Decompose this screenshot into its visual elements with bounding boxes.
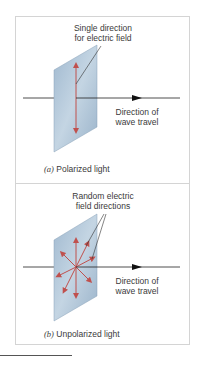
caption-b-letter: (b) xyxy=(44,329,54,339)
direction-label-a: Direction of wave travel xyxy=(112,107,162,127)
direction-arrowhead-a xyxy=(132,95,142,101)
caption-b: (b) Unpolarized light xyxy=(44,329,120,339)
caption-b-text: Unpolarized light xyxy=(54,329,120,339)
direction-arrowhead-b xyxy=(132,264,142,270)
field-label-a-line1: Single direction xyxy=(70,23,136,33)
panel-a-graphics xyxy=(23,45,180,152)
caption-a-text: Polarized light xyxy=(54,164,110,174)
direction-label-b: Direction of wave travel xyxy=(112,276,162,296)
direction-label-b-line2: wave travel xyxy=(112,286,162,296)
field-label-b: Random electric field directions xyxy=(70,191,136,211)
field-label-b-line1: Random electric xyxy=(70,191,136,201)
diagram-graphics xyxy=(0,0,201,366)
direction-label-a-line2: wave travel xyxy=(112,117,162,127)
field-label-a-line2: for electric field xyxy=(70,33,136,43)
footer-rule xyxy=(0,355,72,356)
direction-label-a-line1: Direction of xyxy=(112,107,162,117)
panel-b-graphics xyxy=(23,214,180,321)
direction-label-b-line1: Direction of xyxy=(112,276,162,286)
caption-a-letter: (a) xyxy=(44,164,54,174)
field-label-b-line2: field directions xyxy=(70,201,136,211)
field-label-a: Single direction for electric field xyxy=(70,23,136,43)
caption-a: (a) Polarized light xyxy=(44,164,110,174)
